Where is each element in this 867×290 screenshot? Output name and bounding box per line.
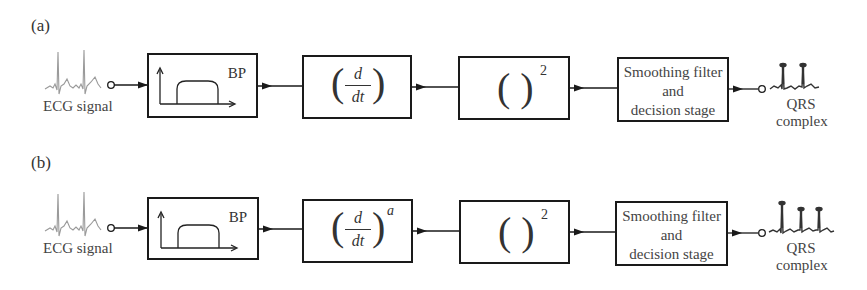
row-a-input-terminal (108, 82, 115, 89)
panel-b-output-label: QRS complex (776, 240, 826, 274)
panel-a-derivative-fraction: d dt (345, 64, 371, 107)
panel-b-label: (b) (31, 153, 51, 173)
derivative-denominator: dt (345, 87, 371, 107)
smoothing-line-3: decision stage (617, 245, 726, 264)
derivative-numerator: d (345, 64, 371, 84)
output-label-line-2: complex (776, 257, 826, 274)
row-b-ecg-input-waveform (45, 192, 101, 236)
row-b-input-terminal (108, 225, 115, 232)
squaring-expression: ( ) (497, 68, 534, 108)
squaring-exponent: 2 (540, 63, 547, 79)
panel-a-squaring-block: ( ) 2 (458, 56, 570, 120)
derivative-exponent: a (387, 203, 394, 219)
derivative-denominator: dt (345, 231, 371, 251)
right-paren: ) (372, 63, 385, 103)
row-b-output-terminal (759, 230, 766, 237)
panel-a-smoothing-decision-block: Smoothing filter and decision stage (617, 57, 729, 122)
left-paren: ( (331, 207, 344, 247)
panel-b-squaring-block: ( ) 2 (459, 200, 570, 264)
panel-b-bandpass-label: BP (229, 209, 247, 226)
panel-a-smoothing-text: Smoothing filter and decision stage (619, 63, 727, 120)
panel-b-derivative-fraction: d dt (345, 208, 371, 251)
panel-b-bandpass-block: BP (147, 197, 259, 260)
fraction-bar (345, 229, 371, 230)
output-label-line-2: complex (776, 113, 826, 130)
squaring-exponent: 2 (541, 207, 548, 223)
fraction-bar (345, 85, 371, 86)
smoothing-line-1: Smoothing filter (619, 63, 727, 82)
row-b-qrs-output-waveform (769, 201, 834, 233)
panel-a-input-label: ECG signal (43, 98, 113, 115)
panel-a-output-label: QRS complex (776, 96, 826, 130)
smoothing-line-1: Smoothing filter (617, 207, 726, 226)
diagram-connectors (0, 0, 867, 290)
squaring-expression: ( ) (498, 212, 535, 252)
left-paren: ( (331, 63, 344, 103)
panel-b-derivative-block: ( d dt ) a (302, 199, 413, 263)
right-paren: ) (372, 207, 385, 247)
smoothing-line-2: and (619, 82, 727, 101)
panel-a-label: (a) (31, 16, 50, 36)
panel-b-smoothing-decision-block: Smoothing filter and decision stage (615, 201, 728, 266)
panel-b-smoothing-text: Smoothing filter and decision stage (617, 207, 726, 264)
smoothing-line-3: decision stage (619, 101, 727, 120)
derivative-numerator: d (345, 208, 371, 228)
row-a-ecg-input-waveform (45, 50, 101, 94)
panel-a-bandpass-block: BP (147, 53, 258, 118)
row-a-qrs-output-waveform (770, 63, 819, 89)
panel-a-bandpass-label: BP (228, 65, 246, 82)
row-a-output-terminal (759, 86, 766, 93)
panel-b-input-label: ECG signal (43, 240, 113, 257)
panel-a-derivative-block: ( d dt ) (302, 55, 412, 119)
smoothing-line-2: and (617, 226, 726, 245)
output-label-line-1: QRS (776, 96, 826, 113)
output-label-line-1: QRS (776, 240, 826, 257)
